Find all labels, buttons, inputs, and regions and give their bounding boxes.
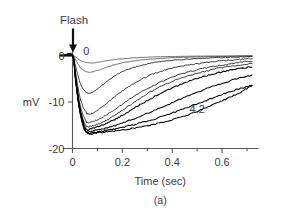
flash-marker bbox=[69, 29, 77, 53]
flash-label: Flash bbox=[60, 14, 88, 26]
y-axis-tick-label: 0 bbox=[58, 50, 64, 62]
x-axis-tick-label: 0.6 bbox=[214, 156, 229, 168]
y-axis-title: mV bbox=[23, 96, 40, 108]
photoreceptor-response-chart: 0-10-2000.20.40.6FlashmVTime (sec)(a)04.… bbox=[0, 0, 294, 216]
response-traces bbox=[60, 54, 253, 135]
figure-panel: 0-10-2000.20.40.6FlashmVTime (sec)(a)04.… bbox=[0, 0, 294, 216]
curve-annotation-label: 4.2 bbox=[190, 103, 205, 115]
x-axis-tick-label: 0 bbox=[69, 156, 75, 168]
chart-labels: 0-10-2000.20.40.6FlashmVTime (sec)(a)04.… bbox=[23, 14, 230, 206]
x-axis-tick-label: 0.4 bbox=[165, 156, 180, 168]
x-axis-title: Time (sec) bbox=[134, 175, 186, 187]
response-trace bbox=[64, 55, 252, 115]
curve-annotation-label: 0 bbox=[83, 45, 89, 57]
x-axis-tick-label: 0.2 bbox=[115, 156, 130, 168]
flash-arrow-head bbox=[69, 45, 77, 53]
y-axis-tick-label: -10 bbox=[49, 96, 65, 108]
panel-label: (a) bbox=[154, 194, 167, 206]
response-trace bbox=[64, 55, 252, 72]
y-axis-tick-label: -20 bbox=[49, 143, 65, 155]
